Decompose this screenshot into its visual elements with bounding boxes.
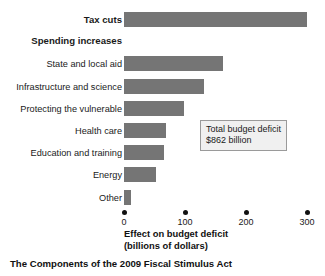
category-label: Protecting the vulnerable: [4, 104, 122, 114]
x-axis-tick-marker: [244, 210, 249, 215]
bar: [124, 101, 184, 116]
bar: [124, 56, 223, 71]
x-axis-tick-marker: [122, 210, 127, 215]
x-axis-tick-label: 100: [170, 217, 200, 227]
bar: [124, 190, 131, 205]
category-label: Education and training: [4, 148, 122, 158]
group-heading-label: Spending increases: [4, 36, 122, 46]
category-label: Infrastructure and science: [4, 82, 122, 92]
x-axis-tick-label: 300: [292, 217, 322, 227]
x-axis-tick-marker: [183, 210, 188, 215]
bar: [124, 79, 204, 94]
category-label: Tax cuts: [4, 15, 122, 25]
bar: [124, 123, 166, 138]
category-label: Health care: [4, 126, 122, 136]
x-axis-tick-label: 200: [231, 217, 261, 227]
annotation-line-2: $862 billion: [206, 135, 281, 146]
figure-caption: The Components of the 2009 Fiscal Stimul…: [10, 258, 232, 269]
category-label: Other: [4, 193, 122, 203]
x-axis-tick-label: 0: [109, 217, 139, 227]
bar: [124, 12, 307, 27]
x-axis-tick-marker: [305, 210, 310, 215]
figure-root: Tax cutsSpending increasesState and loca…: [0, 0, 325, 276]
annotation-line-1: Total budget deficit: [206, 124, 281, 135]
bar: [124, 167, 156, 182]
x-axis: 0100200300: [0, 210, 325, 250]
bar: [124, 145, 164, 160]
annotation-total-deficit: Total budget deficit $862 billion: [200, 120, 287, 151]
category-label: Energy: [4, 170, 122, 180]
category-label: State and local aid: [4, 59, 122, 69]
